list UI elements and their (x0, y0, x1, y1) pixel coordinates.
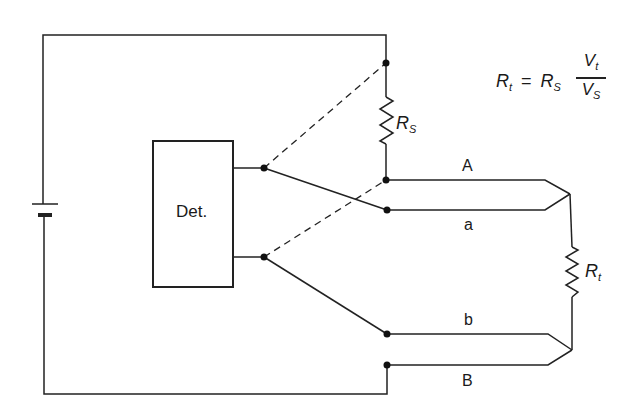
circuit-diagram: Det. RS Rt A a b B Rt = RS Vt VS (0, 0, 628, 408)
bottom-wire (44, 214, 387, 394)
resistor-rs-icon (380, 97, 393, 144)
wire-label-a: a (464, 217, 473, 233)
wire-label-b: b (464, 312, 473, 328)
resistor-rt-icon (566, 247, 578, 297)
formula-lhs: Rt = RS (496, 72, 561, 93)
detector-label: Det. (176, 203, 207, 220)
fraction-bar (576, 77, 606, 79)
rs-label: RS (396, 114, 416, 135)
top-wire (43, 35, 386, 204)
formula-fraction: Vt VS (576, 52, 606, 104)
circuit-wiring (0, 0, 628, 408)
wire-label-A: A (462, 158, 473, 174)
wire-label-B: B (462, 373, 473, 389)
rt-label: Rt (585, 262, 601, 283)
